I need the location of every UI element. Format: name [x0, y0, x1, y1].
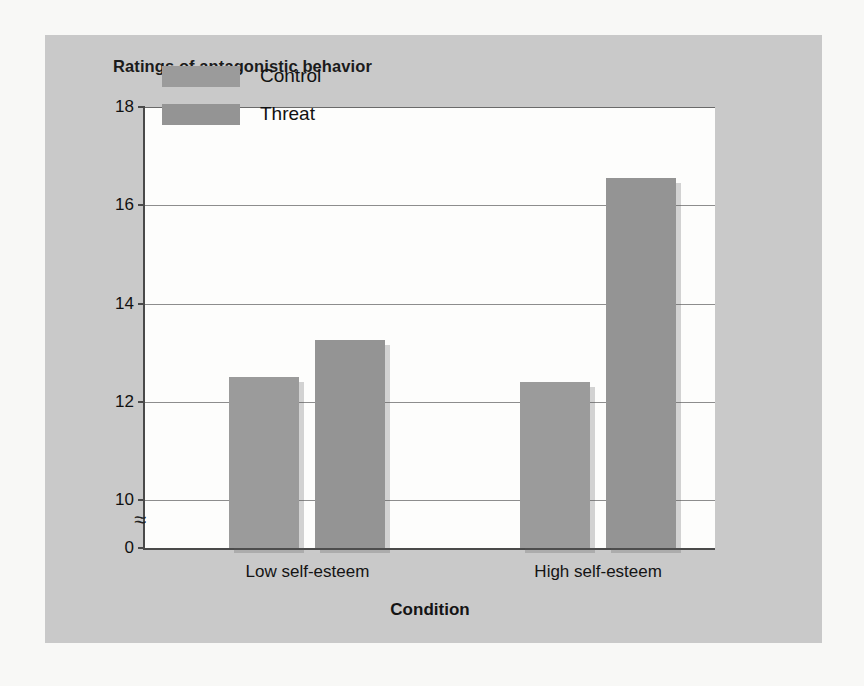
legend-label-threat: Threat [260, 103, 315, 125]
figure-panel: Ratings of antagonistic behavior 1816141… [45, 35, 822, 643]
axis-break-icon: ≈ [131, 509, 149, 531]
y-tick-label-10: 10 [115, 490, 134, 510]
legend-item-control: Control [162, 57, 321, 95]
y-tick-label-12: 12 [115, 392, 134, 412]
y-tick-mark-10 [138, 499, 145, 501]
bar-fill [606, 178, 676, 548]
y-tick-mark-0 [138, 547, 145, 549]
y-tick-label-0: 0 [125, 538, 134, 558]
bar-threat-low [315, 340, 385, 548]
y-tick-mark-12 [138, 401, 145, 403]
bar-fill [520, 382, 590, 548]
bar-control-high [520, 382, 590, 548]
legend-item-threat: Threat [162, 95, 321, 133]
y-tick-mark-18 [138, 106, 145, 108]
x-group-label-low: Low self-esteem [246, 562, 370, 582]
bar-control-low [229, 377, 299, 548]
y-tick-mark-14 [138, 303, 145, 305]
y-tick-mark-16 [138, 204, 145, 206]
bar-threat-high [606, 178, 676, 548]
legend-label-control: Control [260, 65, 321, 87]
chart-legend: Control Threat [162, 57, 321, 133]
legend-swatch-threat [162, 104, 240, 125]
y-tick-label-18: 18 [115, 97, 134, 117]
y-tick-label-14: 14 [115, 294, 134, 314]
plot-area: 18161412100 ≈ Low self-esteemHigh self-e… [143, 107, 715, 550]
bar-fill [315, 340, 385, 548]
legend-swatch-control [162, 66, 240, 87]
y-tick-label-16: 16 [115, 195, 134, 215]
x-group-label-high: High self-esteem [534, 562, 662, 582]
x-axis-title: Condition [390, 600, 469, 620]
bar-fill [229, 377, 299, 548]
